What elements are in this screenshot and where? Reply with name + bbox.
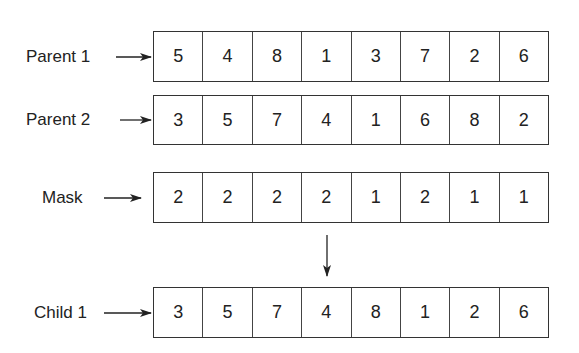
child1-cell: 6: [499, 288, 548, 337]
mask-cell: 2: [252, 173, 301, 222]
child1-cell: 3: [154, 288, 202, 337]
parent1-row: 54813726: [153, 31, 549, 82]
parent2-cell: 1: [351, 96, 400, 144]
parent2-cell: 4: [301, 96, 350, 144]
child1-label: Child 1: [34, 303, 87, 323]
parent2-label: Parent 2: [26, 110, 90, 130]
parent1-cell: 3: [351, 32, 400, 81]
mask-row: 22221211: [153, 172, 549, 223]
parent2-cell: 8: [449, 96, 498, 144]
child1-cell: 5: [202, 288, 251, 337]
parent2-cell: 6: [400, 96, 449, 144]
parent2-cell: 5: [202, 96, 251, 144]
child1-cell: 2: [449, 288, 498, 337]
parent1-cell: 6: [499, 32, 548, 81]
child1-cell: 1: [400, 288, 449, 337]
parent1-cell: 2: [449, 32, 498, 81]
parent2-cell: 2: [499, 96, 548, 144]
mask-cell: 2: [301, 173, 350, 222]
mask-cell: 1: [499, 173, 548, 222]
mask-cell: 2: [400, 173, 449, 222]
child1-cell: 7: [252, 288, 301, 337]
parent1-cell: 1: [301, 32, 350, 81]
parent2-cell: 3: [154, 96, 202, 144]
parent2-row: 35741682: [153, 95, 549, 145]
mask-cell: 2: [202, 173, 251, 222]
child1-cell: 8: [351, 288, 400, 337]
mask-cell: 1: [449, 173, 498, 222]
parent1-cell: 5: [154, 32, 202, 81]
parent1-label: Parent 1: [26, 47, 90, 67]
mask-cell: 1: [351, 173, 400, 222]
parent2-cell: 7: [252, 96, 301, 144]
mask-cell: 2: [154, 173, 202, 222]
child1-row: 35748126: [153, 287, 549, 338]
parent1-cell: 8: [252, 32, 301, 81]
parent1-cell: 4: [202, 32, 251, 81]
child1-cell: 4: [301, 288, 350, 337]
parent1-cell: 7: [400, 32, 449, 81]
mask-label: Mask: [42, 188, 83, 208]
